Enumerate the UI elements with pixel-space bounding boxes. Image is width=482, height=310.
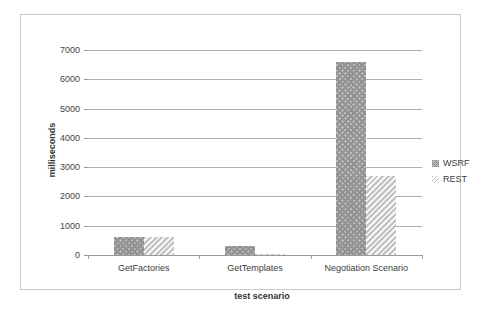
y-axis-tick-label: 4000 [34, 133, 80, 143]
bar-rest-1 [255, 254, 285, 255]
gridline [88, 79, 422, 80]
y-axis-tick-label: 0 [34, 250, 80, 260]
x-axis-tick [88, 255, 89, 259]
gridline [88, 167, 422, 168]
y-axis-title: milliseconds [47, 100, 61, 200]
y-axis-tick-label: 1000 [34, 221, 80, 231]
y-axis-tick-label: 7000 [34, 45, 80, 55]
gridline [88, 50, 422, 51]
y-axis-tick-label: 2000 [34, 191, 80, 201]
bar-rest-2 [366, 176, 396, 255]
y-axis-tick-label: 6000 [34, 74, 80, 84]
x-axis-category-label: GetFactories [88, 263, 199, 273]
y-axis-tick-label: 3000 [34, 162, 80, 172]
legend-label-rest: REST [443, 174, 467, 184]
y-axis-tick [84, 138, 88, 139]
legend-item-rest[interactable]: REST [432, 171, 482, 187]
legend-swatch-wsrf-icon [432, 160, 439, 167]
gridline [88, 255, 422, 256]
x-axis-tick [311, 255, 312, 259]
legend-item-wsrf[interactable]: WSRF [432, 155, 482, 171]
legend-label-wsrf: WSRF [443, 158, 470, 168]
gridline [88, 138, 422, 139]
y-axis-tick [84, 79, 88, 80]
y-axis-tick [84, 226, 88, 227]
bar-wsrf-2 [336, 62, 366, 255]
x-axis-tick [422, 255, 423, 259]
chart-legend: WSRF REST [432, 155, 482, 187]
plot-area: 01000200030004000500060007000 [88, 50, 422, 255]
bar-rest-0 [144, 237, 174, 255]
chart-frame: milliseconds 010002000300040005000600070… [20, 14, 461, 290]
y-axis-tick [84, 109, 88, 110]
bar-wsrf-1 [225, 246, 255, 255]
y-axis-tick-label: 5000 [34, 104, 80, 114]
x-axis-title: test scenario [21, 291, 482, 301]
x-axis-category-label: GetTemplates [199, 263, 310, 273]
y-axis-tick [84, 167, 88, 168]
legend-swatch-rest-icon [432, 176, 439, 183]
x-axis-category-label: Negotiation Scenario [311, 263, 422, 273]
y-axis-tick [84, 50, 88, 51]
x-axis-tick [199, 255, 200, 259]
y-axis-tick [84, 196, 88, 197]
bar-wsrf-0 [114, 237, 144, 255]
gridline [88, 109, 422, 110]
